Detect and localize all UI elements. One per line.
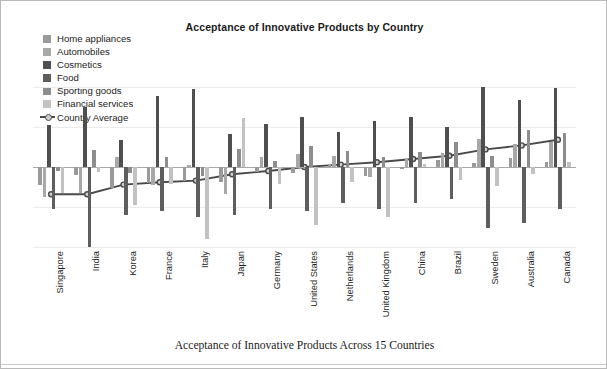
bar[interactable] <box>328 164 332 167</box>
bar[interactable] <box>567 162 571 167</box>
bar[interactable] <box>264 124 268 167</box>
bar[interactable] <box>382 157 386 167</box>
bar[interactable] <box>115 157 119 167</box>
bar[interactable] <box>156 96 160 167</box>
bar[interactable] <box>522 167 526 223</box>
bar[interactable] <box>61 167 65 193</box>
bar[interactable] <box>405 158 409 167</box>
bar[interactable] <box>490 156 494 167</box>
bar[interactable] <box>79 167 83 193</box>
bar[interactable] <box>124 167 128 215</box>
bar[interactable] <box>400 167 404 169</box>
bar[interactable] <box>56 167 60 171</box>
bar[interactable] <box>305 167 309 211</box>
bar[interactable] <box>242 118 246 167</box>
bar[interactable] <box>459 167 463 180</box>
bar[interactable] <box>414 167 418 203</box>
bar[interactable] <box>545 162 549 167</box>
bar[interactable] <box>110 167 114 188</box>
bar[interactable] <box>481 87 485 167</box>
bar[interactable] <box>151 167 155 185</box>
bar[interactable] <box>486 167 490 228</box>
bar[interactable] <box>88 167 92 247</box>
bar[interactable] <box>341 167 345 203</box>
legend-item-cosmetics[interactable]: Cosmetics <box>43 58 133 71</box>
bar[interactable] <box>436 160 440 167</box>
bar[interactable] <box>74 167 78 175</box>
bar[interactable] <box>518 100 522 167</box>
bar[interactable] <box>373 121 377 167</box>
bar[interactable] <box>332 156 336 167</box>
bar[interactable] <box>454 142 458 167</box>
bar[interactable] <box>133 167 137 205</box>
bar[interactable] <box>160 167 164 211</box>
bar[interactable] <box>423 164 427 167</box>
bar[interactable] <box>119 140 123 167</box>
bar[interactable] <box>224 167 228 194</box>
bar[interactable] <box>97 167 101 172</box>
bar[interactable] <box>513 144 517 167</box>
bar[interactable] <box>527 130 531 167</box>
bar[interactable] <box>269 167 273 209</box>
bar[interactable] <box>38 167 42 185</box>
legend-item-food[interactable]: Food <box>43 71 133 84</box>
bar[interactable] <box>364 167 368 176</box>
legend-item-home-appliances[interactable]: Home appliances <box>43 32 133 45</box>
bar[interactable] <box>291 167 295 173</box>
bar[interactable] <box>52 167 56 209</box>
bar[interactable] <box>219 167 223 182</box>
bar[interactable] <box>165 157 169 167</box>
bar[interactable] <box>409 117 413 167</box>
bar[interactable] <box>368 167 372 177</box>
bar[interactable] <box>350 167 354 182</box>
bar[interactable] <box>346 151 350 167</box>
bar[interactable] <box>477 139 481 167</box>
bar[interactable] <box>445 127 449 167</box>
bar[interactable] <box>228 134 232 167</box>
bar[interactable] <box>273 161 277 167</box>
bar[interactable] <box>450 167 454 199</box>
bar[interactable] <box>237 149 241 167</box>
x-axis-tick-label: Australia <box>526 251 536 287</box>
bar[interactable] <box>558 167 562 209</box>
bar[interactable] <box>531 167 535 174</box>
bar[interactable] <box>43 167 47 197</box>
bar[interactable] <box>418 152 422 167</box>
bar[interactable] <box>83 107 87 167</box>
bar[interactable] <box>183 167 187 181</box>
legend-item-label: Cosmetics <box>57 58 102 71</box>
legend-item-label: Automobiles <box>57 45 110 58</box>
bar[interactable] <box>187 165 191 167</box>
bar[interactable] <box>377 167 381 209</box>
bar[interactable] <box>205 167 209 239</box>
bar[interactable] <box>278 167 282 184</box>
legend-item-automobiles[interactable]: Automobiles <box>43 45 133 58</box>
bar[interactable] <box>563 133 567 167</box>
bar[interactable] <box>255 167 259 172</box>
bar[interactable] <box>47 125 51 167</box>
bar[interactable] <box>92 150 96 167</box>
bar[interactable] <box>147 167 151 183</box>
bar[interactable] <box>169 167 173 184</box>
bar[interactable] <box>549 142 553 167</box>
bar[interactable] <box>260 157 264 167</box>
bar[interactable] <box>309 146 313 167</box>
bar[interactable] <box>196 167 200 217</box>
bar[interactable] <box>314 167 318 225</box>
bar[interactable] <box>192 89 196 167</box>
bar[interactable] <box>201 167 205 176</box>
bar[interactable] <box>296 154 300 167</box>
bar[interactable] <box>554 88 558 167</box>
bar[interactable] <box>495 167 499 186</box>
bar[interactable] <box>233 167 237 215</box>
bar[interactable] <box>472 163 476 167</box>
bar-group <box>38 87 64 247</box>
bar[interactable] <box>441 153 445 167</box>
bar[interactable] <box>386 167 390 217</box>
chart-figure: Acceptance of Innovative Products by Cou… <box>0 0 607 369</box>
bar[interactable] <box>128 167 132 173</box>
bar[interactable] <box>300 117 304 167</box>
bar[interactable] <box>509 158 513 167</box>
bar[interactable] <box>337 132 341 167</box>
legend-swatch-icon <box>43 35 51 43</box>
